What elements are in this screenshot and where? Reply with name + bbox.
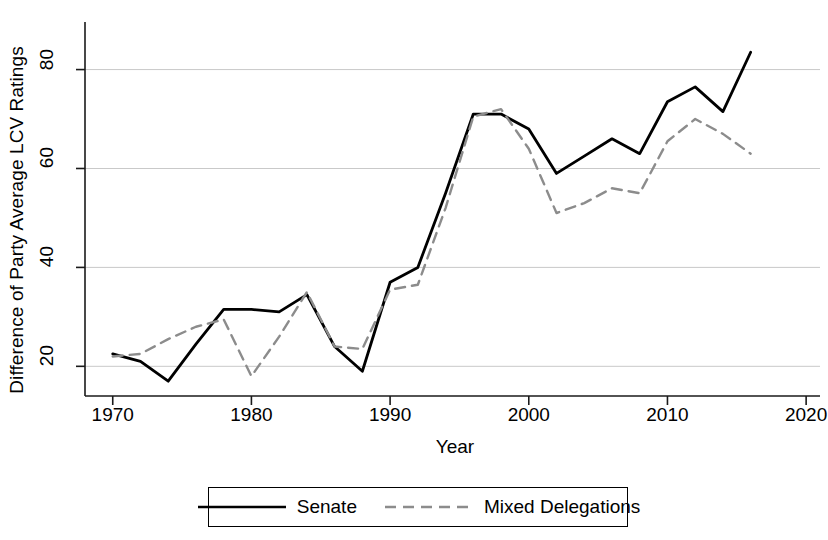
y-tick-label-60: 60 — [36, 147, 58, 187]
legend-line-dashed-icon — [383, 500, 475, 514]
x-tick-label-2010: 2010 — [632, 404, 702, 426]
legend-entry-senate: Senate — [196, 496, 357, 518]
y-tick-label-20: 20 — [36, 345, 58, 385]
legend-label-mixed-delegations: Mixed Delegations — [484, 496, 640, 518]
legend-line-solid-icon — [196, 500, 288, 514]
x-tick-label-1970: 1970 — [78, 404, 148, 426]
x-tick-label-1980: 1980 — [216, 404, 286, 426]
legend-entry-mixed-delegations: Mixed Delegations — [383, 496, 640, 518]
series-line-mixed-delegations — [113, 109, 751, 376]
x-tick-label-1990: 1990 — [355, 404, 425, 426]
x-axis-title: Year — [85, 436, 825, 458]
y-tick-label-80: 80 — [36, 49, 58, 89]
legend-label-senate: Senate — [297, 496, 357, 518]
x-tick-label-2000: 2000 — [494, 404, 564, 426]
y-tick-label-40: 40 — [36, 246, 58, 286]
chart-legend: Senate Mixed Delegations — [208, 487, 628, 527]
series-line-senate — [113, 52, 751, 381]
plot-canvas — [0, 0, 828, 540]
lcv-ratings-line-chart: Difference of Party Average LCV Ratings … — [0, 0, 828, 540]
x-tick-label-2020: 2020 — [771, 404, 828, 426]
